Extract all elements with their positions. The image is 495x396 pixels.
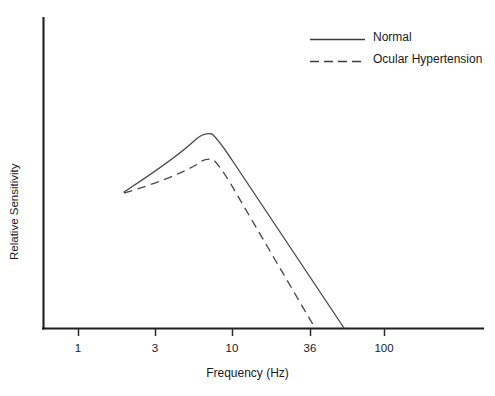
x-axis-title: Frequency (Hz) bbox=[0, 366, 495, 380]
y-axis-title: Relative Sensitivity bbox=[8, 244, 20, 260]
legend-item-ocular-hypertension: Ocular Hypertension bbox=[306, 49, 492, 71]
x-axis-ticks bbox=[79, 329, 385, 337]
series-line-normal bbox=[124, 134, 344, 328]
chart-figure: 1 3 10 36 100 Frequency (Hz) Relative Se… bbox=[0, 0, 495, 396]
x-tick-label-1: 1 bbox=[75, 343, 81, 355]
x-tick-label-100: 100 bbox=[374, 343, 393, 355]
legend-label-ocular-hypertension: Ocular Hypertension bbox=[373, 52, 482, 66]
x-tick-label-10: 10 bbox=[226, 343, 239, 355]
legend-label-normal: Normal bbox=[373, 30, 412, 44]
series-line-ocular-hypertension bbox=[124, 159, 315, 328]
legend-item-normal: Normal bbox=[306, 27, 492, 49]
x-tick-label-36: 36 bbox=[304, 343, 317, 355]
x-tick-label-3: 3 bbox=[152, 343, 158, 355]
chart-legend: Normal Ocular Hypertension bbox=[306, 27, 492, 71]
